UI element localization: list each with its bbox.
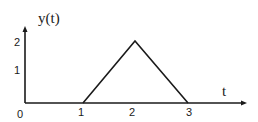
x-axis-arrow-icon (241, 101, 247, 106)
y-axis-arrow-icon (23, 26, 28, 32)
origin-label: 0 (17, 108, 23, 120)
signal-plot: y(t) t 0 1 2 3 1 2 (0, 0, 258, 122)
x-axis-label: t (222, 83, 227, 99)
y-tick-2: 2 (14, 36, 20, 48)
y-tick-1: 1 (14, 64, 20, 76)
signal-line (83, 41, 188, 103)
x-tick-1: 1 (78, 106, 84, 118)
y-axis-label: y(t) (38, 10, 60, 27)
plot-svg: y(t) t 0 1 2 3 1 2 (0, 0, 258, 122)
x-tick-3: 3 (186, 106, 192, 118)
x-tick-2: 2 (129, 106, 135, 118)
